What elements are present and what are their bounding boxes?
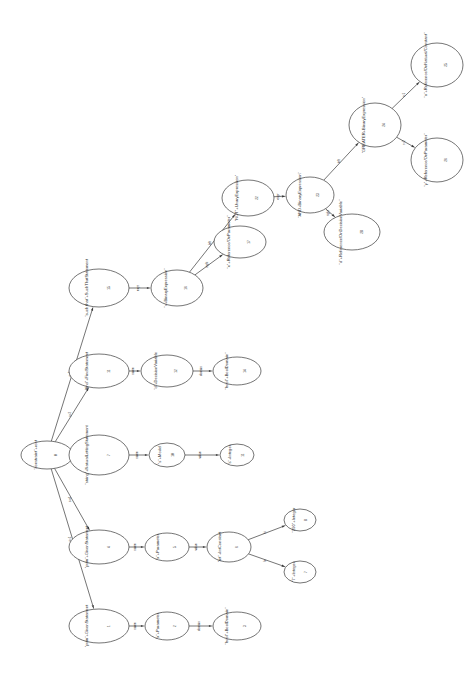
tree-graph: s=1s=4s=7s=2s=3namenamenamenameexprdomai…	[0, 0, 474, 685]
graph-node[interactable]: "7"+Integer7	[284, 561, 316, 583]
node-ellipse[interactable]	[69, 354, 129, 388]
edge-arrowhead	[282, 195, 286, 197]
node-label: "bool"+BoolDomain"	[224, 607, 229, 644]
node-label: "x"+Reference/OnParameter"	[226, 215, 231, 269]
graph-node[interactable]: "find"+FindStatement11	[69, 351, 129, 390]
node-label: "NOT"+UnaryExpression"	[234, 174, 239, 221]
node-id: 22	[255, 196, 259, 200]
node-ellipse[interactable]	[69, 435, 129, 475]
graph-node[interactable]: "constraint"+root0	[21, 439, 73, 470]
graph-node[interactable]: "y"+Reference/OnParameter"26	[411, 133, 463, 187]
node-id: 25	[444, 63, 448, 67]
graph-node[interactable]: "NOT"+UnaryExpression"22	[222, 174, 274, 221]
graph-node[interactable]: "=+BinaryExpression"16	[151, 268, 203, 308]
node-id: 11	[107, 369, 111, 373]
node-id: 0	[54, 454, 58, 456]
edge-label: domain	[197, 621, 201, 631]
graph-node[interactable]: "x"+Reference/OnParameter"17	[214, 215, 266, 269]
graph-node[interactable]: "x"+Parameter5	[145, 533, 189, 561]
node-ellipse[interactable]	[222, 180, 274, 216]
edge-arrowhead	[209, 625, 213, 627]
node-ellipse[interactable]	[151, 270, 203, 306]
node-ellipse[interactable]	[141, 355, 193, 387]
edge-arrowhead	[281, 565, 285, 567]
node-ellipse[interactable]	[220, 444, 254, 466]
graph-node[interactable]: "s"+Integer11	[220, 444, 254, 466]
edge-label: left	[337, 159, 341, 163]
edge-arrowhead	[137, 370, 141, 372]
edge-arrowhead	[411, 145, 415, 148]
node-id: 10	[171, 453, 175, 457]
node-ellipse[interactable]	[286, 177, 334, 213]
node-ellipse[interactable]	[214, 226, 266, 258]
graph-node[interactable]: "d"+Reference/OnDecisionVariable"28	[324, 199, 380, 264]
node-id: 8	[304, 519, 308, 521]
node-id: 16	[184, 286, 188, 290]
node-ellipse[interactable]	[411, 138, 463, 182]
graph-edge: name	[129, 367, 141, 375]
graph-node[interactable]: "such that"+SuchThatStatement15	[69, 258, 129, 317]
node-label: "GREATER+BinaryExpression"	[361, 96, 366, 153]
graph-node[interactable]: "s"+Model10	[149, 443, 185, 467]
node-id: 4	[107, 546, 111, 548]
graph-node[interactable]: "int"+IntConstant6	[207, 531, 251, 562]
edge-arrowhead	[203, 546, 207, 548]
diagram-canvas: s=1s=4s=7s=2s=3namenamenamenameexprdomai…	[0, 0, 474, 685]
node-ellipse[interactable]	[213, 612, 261, 640]
node-ellipse[interactable]	[411, 43, 463, 87]
node-label: "x"+Parameter	[155, 533, 160, 560]
edge-label: left	[208, 241, 212, 245]
node-id: 17	[247, 240, 251, 244]
node-label: "d"+DecisionVariable	[153, 351, 158, 390]
node-label: "x"+Reference/OnNatural/Constant"	[423, 32, 428, 98]
graph-node[interactable]: "bool"+BoolDomain"3	[213, 607, 261, 644]
edge-label: value	[198, 451, 202, 459]
node-ellipse[interactable]	[207, 532, 251, 562]
node-label: "int"+IntConstant	[217, 531, 222, 562]
node-ellipse[interactable]	[145, 612, 189, 640]
node-label: "x"+Parameter	[155, 612, 160, 639]
node-label: "constraint"+root	[33, 439, 38, 470]
node-id: 14	[243, 369, 247, 373]
edge-label: lo	[263, 559, 267, 562]
node-label: "290"+Integer	[291, 507, 296, 533]
node-ellipse[interactable]	[145, 533, 189, 561]
graph-node[interactable]: "prim"+GivenStatement1	[69, 604, 129, 647]
graph-node[interactable]: "x"+Reference/OnNatural/Constant"25	[411, 32, 463, 98]
edge-arrowhead	[141, 625, 145, 627]
node-id: 23	[316, 193, 320, 197]
node-ellipse[interactable]	[349, 103, 401, 147]
node-ellipse[interactable]	[284, 561, 316, 583]
graph-edge: r=2	[397, 137, 416, 148]
node-label: "y"+Reference/OnParameter"	[423, 133, 428, 187]
edge-label: value	[194, 543, 198, 551]
edge-label: name	[135, 451, 139, 459]
node-ellipse[interactable]	[324, 214, 380, 250]
edge-label: expr	[276, 194, 280, 200]
node-ellipse[interactable]	[69, 530, 129, 564]
node-ellipse[interactable]	[213, 357, 261, 385]
node-id: 3	[243, 625, 247, 627]
node-ellipse[interactable]	[69, 609, 129, 643]
node-ellipse[interactable]	[69, 269, 129, 307]
node-id: 6	[235, 546, 239, 548]
nodes-layer: "constraint"+root0"prim"+GivenStatement1…	[21, 32, 463, 647]
graph-edge: name	[129, 622, 145, 630]
node-ellipse[interactable]	[284, 509, 316, 531]
graph-edge: right	[195, 254, 223, 275]
node-id: 7	[304, 571, 308, 573]
graph-node[interactable]: "290"+Integer8	[284, 507, 316, 533]
node-id: 1	[107, 625, 111, 627]
node-label: "find"+FindStatement	[84, 351, 89, 390]
graph-edge: r=1	[392, 82, 420, 109]
edge-arrowhead	[92, 605, 94, 609]
graph-node[interactable]: "d"+DecisionVariable12	[141, 351, 193, 390]
graph-node[interactable]: "string"+NaturalLettingStatement7	[69, 424, 129, 484]
graph-node[interactable]: "prim"+GivenStatement4	[69, 525, 129, 568]
node-ellipse[interactable]	[21, 441, 73, 469]
graph-node[interactable]: "bool"+BoolDomain"14	[213, 352, 261, 389]
node-ellipse[interactable]	[149, 443, 185, 467]
graph-edge: left	[324, 142, 359, 180]
node-id: 12	[174, 369, 178, 373]
graph-node[interactable]: "x"+Parameter2	[145, 612, 189, 640]
